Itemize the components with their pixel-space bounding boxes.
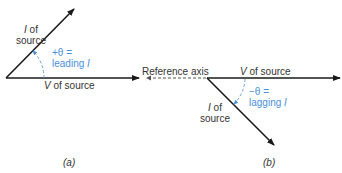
current-label-text: of <box>211 102 222 113</box>
leading-angle-label: +θ = leading I <box>52 47 90 69</box>
reference-axis-label: Reference axis <box>142 66 209 77</box>
caption-b: (b) <box>263 157 275 168</box>
angle-arc-b <box>234 79 245 104</box>
voltage-label-b: V of source <box>240 66 291 77</box>
angle-line2: lagging <box>249 97 284 108</box>
caption-a-text: (a) <box>63 157 75 168</box>
lagging-angle-label: −θ = lagging I <box>249 86 287 108</box>
voltage-symbol: V <box>44 80 51 91</box>
current-label-text: of <box>27 24 38 35</box>
angle-symbol: I <box>284 97 287 108</box>
current-label-b: I of source <box>200 102 230 124</box>
voltage-label-a: V of source <box>44 80 95 91</box>
voltage-text: of source <box>247 66 291 77</box>
angle-symbol: I <box>87 58 90 69</box>
caption-a: (a) <box>63 157 75 168</box>
angle-line1: −θ = <box>249 86 269 97</box>
current-label-a: I of source <box>16 24 46 46</box>
angle-arc-a <box>33 51 44 78</box>
angle-line1: +θ = <box>52 47 72 58</box>
angle-line2: leading <box>52 58 87 69</box>
reference-axis-text: Reference axis <box>142 66 209 77</box>
current-label-line2: source <box>16 35 46 46</box>
voltage-symbol: V <box>240 66 247 77</box>
current-label-line2: source <box>200 113 230 124</box>
caption-b-text: (b) <box>263 157 275 168</box>
voltage-text: of source <box>51 80 95 91</box>
